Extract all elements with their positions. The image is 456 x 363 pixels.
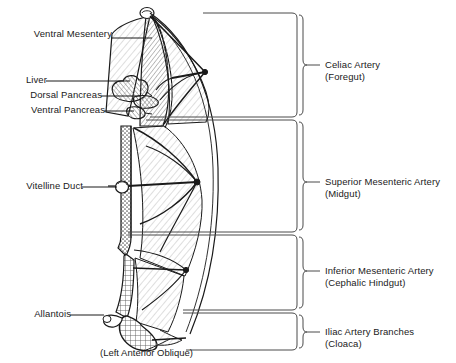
label-inferior-mesenteric-artery: Inferior Mesenteric Artery	[325, 265, 434, 277]
allantois-tip	[103, 316, 111, 323]
figure-root: Ventral Mesentery Liver Dorsal Pancreas …	[0, 0, 456, 363]
label-superior-mesenteric-artery: Superior Mesenteric Artery	[325, 176, 440, 188]
label-celiac-artery-sub: (Foregut)	[325, 71, 365, 83]
midgut-mesentery	[133, 126, 202, 276]
label-iliac-artery-branches-sub: (Cloaca)	[325, 338, 362, 350]
brace-sma	[299, 122, 307, 230]
ventral-pancreas-shape	[127, 107, 145, 119]
hindgut-wall	[116, 254, 134, 318]
label-liver: Liver	[0, 74, 47, 86]
region-box-iliac	[183, 313, 297, 350]
label-superior-mesenteric-artery-sub: (Midgut)	[325, 188, 361, 200]
label-vitelline-duct: Vitelline Duct	[0, 180, 83, 192]
embryo-gut-drawing	[46, 8, 320, 351]
label-iliac-artery-branches: Iliac Artery Branches	[325, 326, 414, 338]
label-allantois: Allantois	[0, 308, 71, 320]
brace-group	[299, 15, 320, 348]
label-celiac-artery: Celiac Artery	[325, 59, 380, 71]
label-dorsal-pancreas: Dorsal Pancreas	[0, 89, 102, 101]
vitelline-duct-bulb	[116, 181, 129, 193]
brace-iliac	[299, 315, 307, 348]
label-inferior-mesenteric-artery-sub: (Cephalic Hindgut)	[325, 277, 405, 289]
figure-caption: (Left Anterior Oblique)	[100, 347, 193, 358]
celiac-artery-node	[202, 69, 207, 74]
brace-celiac	[299, 15, 307, 115]
label-ventral-pancreas: Ventral Pancreas	[0, 104, 105, 116]
label-ventral-mesentery: Ventral Mesentery	[0, 28, 112, 40]
brace-ima	[299, 237, 307, 308]
